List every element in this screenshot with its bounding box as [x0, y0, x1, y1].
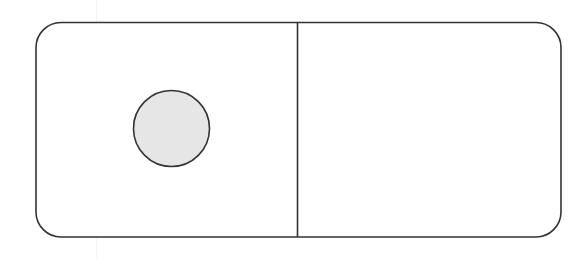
domino-tile — [36, 23, 561, 238]
left-half — [134, 91, 210, 167]
pip-icon — [134, 91, 210, 167]
domino-diagram — [0, 0, 585, 259]
